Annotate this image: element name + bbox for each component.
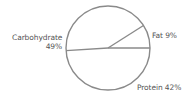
slice-divider — [66, 48, 108, 51]
slice-divider — [108, 26, 143, 49]
label-carbohydrate-value: 49% — [12, 42, 62, 51]
label-carbohydrate: Carbohydrate 49% — [12, 33, 62, 51]
pie-slice-dividers — [66, 26, 150, 51]
label-carbohydrate-name: Carbohydrate — [12, 33, 62, 42]
label-protein: Protein 42% — [137, 83, 181, 92]
label-fat: Fat 9% — [152, 31, 177, 40]
